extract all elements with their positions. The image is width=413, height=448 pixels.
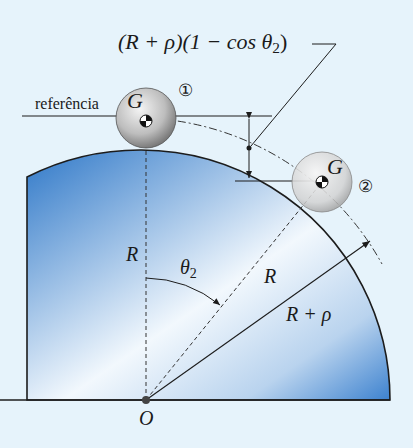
radius-label-vertical: R [126, 244, 138, 264]
angle-label: θ2 [180, 257, 197, 281]
radius-label-diagonal: R [264, 266, 276, 286]
diagram-canvas: (R + ρ)(1 − cos θ2) referência G ① G ② R… [0, 0, 413, 448]
g-label-1: G [127, 90, 143, 112]
diagram-graphics [0, 0, 413, 448]
g-label-2: G [327, 156, 343, 178]
angle-subscript: 2 [190, 266, 197, 281]
formula-text: (R + ρ)(1 − cos θ [118, 29, 272, 54]
origin-label: O [139, 408, 153, 428]
angle-symbol: θ [180, 256, 190, 278]
formula-subscript: 2 [272, 39, 280, 56]
formula-leader-line [251, 44, 336, 146]
reference-label: referência [35, 96, 99, 112]
radius-plus-rho-label: R + ρ [286, 304, 331, 324]
formula-tail: ) [280, 29, 287, 54]
height-formula-label: (R + ρ)(1 − cos θ2) [118, 31, 287, 55]
origin-point [142, 396, 150, 404]
position-marker-1: ① [178, 82, 193, 99]
center-of-gravity-icon-1 [140, 115, 152, 127]
dimension-dot [247, 146, 252, 151]
position-marker-2: ② [358, 178, 373, 195]
